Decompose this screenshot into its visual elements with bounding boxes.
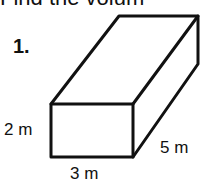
height-label: 2 m — [4, 121, 32, 138]
top-face — [51, 16, 198, 104]
depth-label: 5 m — [160, 139, 188, 156]
side-face — [133, 16, 198, 157]
rectangular-prism-figure — [0, 0, 208, 191]
width-label: 3 m — [70, 165, 98, 182]
front-face — [51, 104, 133, 157]
